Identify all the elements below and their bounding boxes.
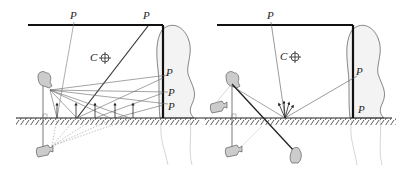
label-p-top-1: P bbox=[69, 9, 77, 21]
center-target-icon-right bbox=[289, 51, 301, 63]
label-p-wall-3: P bbox=[167, 100, 175, 112]
top-ray bbox=[57, 22, 74, 118]
faint-ray-right bbox=[240, 126, 262, 148]
bottom-camera-icon bbox=[290, 147, 301, 163]
label-p-top-right: P bbox=[266, 9, 274, 21]
camera-rays bbox=[50, 75, 168, 118]
side-camera-icon bbox=[210, 101, 227, 113]
label-p-wall-right: P bbox=[355, 65, 363, 77]
label-p-wall-2: P bbox=[167, 86, 175, 98]
diagonal-ray bbox=[77, 26, 148, 118]
mirrored-camera-icon bbox=[36, 145, 53, 157]
wall-ray-right bbox=[285, 76, 357, 118]
mirrored-camera-icon-right bbox=[225, 145, 242, 157]
normal-arrows bbox=[57, 104, 133, 118]
figure-reflection bbox=[161, 120, 192, 165]
ground-hatch bbox=[16, 118, 200, 125]
ground-hatch-right bbox=[204, 118, 396, 125]
label-p-top-2: P bbox=[142, 9, 150, 21]
figure-reflection-right bbox=[351, 120, 382, 165]
left-panel: C P P P P P bbox=[16, 9, 200, 165]
label-p-corner-right: P bbox=[357, 103, 365, 115]
right-panel: C P P P bbox=[200, 9, 396, 165]
label-p-wall-1: P bbox=[165, 66, 173, 78]
diagram-stage: C P P P P P bbox=[0, 0, 400, 171]
label-c-right: C bbox=[280, 50, 288, 62]
center-target-icon bbox=[99, 52, 111, 64]
camera-icon bbox=[38, 72, 52, 88]
top-ray-right bbox=[271, 22, 285, 118]
label-c-left: C bbox=[90, 51, 98, 63]
